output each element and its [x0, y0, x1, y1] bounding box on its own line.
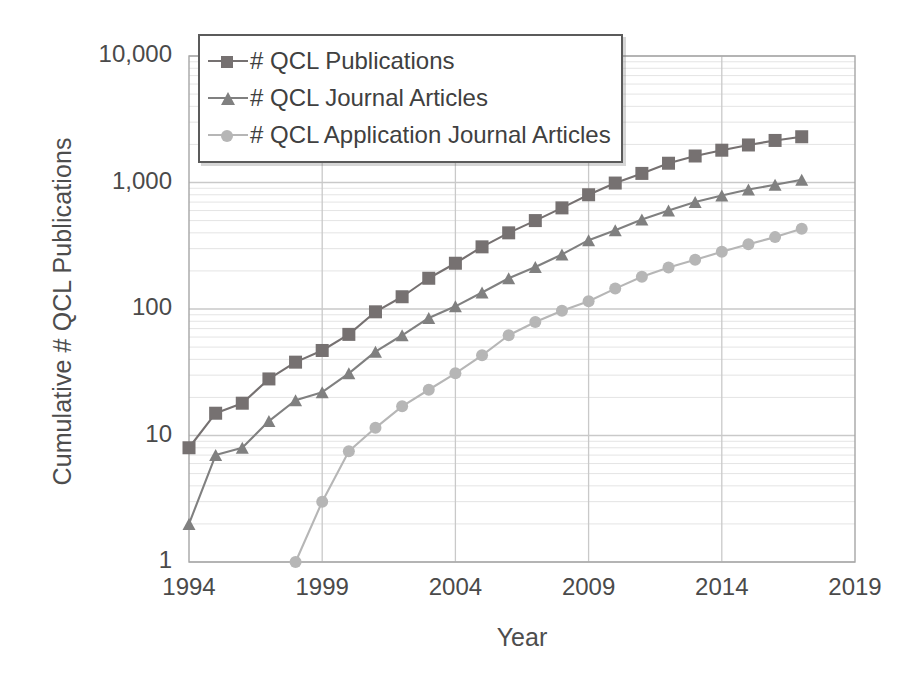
x-tick-label: 2019	[795, 573, 900, 601]
triangle-marker-icon	[221, 92, 235, 105]
data-point-marker	[449, 257, 462, 270]
data-point-marker	[476, 240, 489, 253]
data-point-marker	[423, 384, 435, 396]
data-point-marker	[422, 272, 435, 285]
data-point-marker	[609, 224, 622, 236]
data-point-marker	[316, 344, 329, 357]
data-point-marker	[689, 254, 701, 266]
legend-item: # QCL Publications	[208, 42, 611, 79]
circle-marker-icon	[221, 130, 233, 142]
data-point-marker	[795, 130, 808, 143]
y-tick-label: 10	[42, 420, 172, 448]
legend-item: # QCL Application Journal Articles	[208, 116, 611, 153]
data-point-marker	[503, 329, 515, 341]
legend-marker-square-icon	[208, 52, 248, 70]
data-point-marker	[290, 556, 302, 568]
legend-item-label: # QCL Publications	[250, 49, 455, 73]
data-point-marker	[316, 496, 328, 508]
y-tick-label: 1,000	[42, 167, 172, 195]
data-point-marker	[422, 312, 435, 324]
x-tick-label: 2014	[662, 573, 782, 601]
data-series-layer	[183, 130, 809, 568]
data-point-marker	[583, 295, 595, 307]
data-point-marker	[582, 188, 595, 201]
y-tick-label: 10,000	[42, 40, 172, 68]
data-series	[183, 130, 809, 454]
data-point-marker	[342, 328, 355, 341]
legend-item-label: # QCL Journal Articles	[250, 86, 488, 110]
data-series	[290, 223, 808, 568]
y-tick-label: 1	[42, 546, 172, 574]
x-tick-label: 1999	[262, 573, 382, 601]
data-point-marker	[289, 356, 302, 369]
legend-marker-triangle-icon	[208, 89, 248, 107]
x-tick-label: 2004	[395, 573, 515, 601]
data-point-marker	[529, 214, 542, 227]
data-point-marker	[555, 248, 568, 260]
data-point-marker	[796, 223, 808, 235]
data-point-marker	[502, 226, 515, 239]
data-point-marker	[369, 305, 382, 318]
data-point-marker	[262, 372, 275, 385]
data-point-marker	[769, 134, 782, 147]
x-tick-label: 1994	[129, 573, 249, 601]
data-point-marker	[289, 394, 302, 406]
data-point-marker	[609, 283, 621, 295]
data-point-marker	[343, 445, 355, 457]
data-point-marker	[635, 214, 648, 226]
data-point-marker	[635, 167, 648, 180]
data-point-marker	[369, 422, 381, 434]
data-point-marker	[715, 144, 728, 157]
data-point-marker	[582, 234, 595, 246]
legend-item-label: # QCL Application Journal Articles	[250, 123, 611, 147]
legend-item: # QCL Journal Articles	[208, 79, 611, 116]
data-point-marker	[689, 149, 702, 162]
data-point-marker	[396, 400, 408, 412]
x-tick-label: 2009	[529, 573, 649, 601]
data-point-marker	[742, 138, 755, 151]
data-point-marker	[742, 238, 754, 250]
data-point-marker	[209, 407, 222, 420]
data-point-marker	[529, 316, 541, 328]
data-point-marker	[555, 201, 568, 214]
data-point-marker	[662, 157, 675, 170]
data-point-marker	[236, 397, 249, 410]
qcl-publications-chart: Cumulative # QCL Publications Year 10,00…	[0, 0, 900, 691]
legend-marker-circle-icon	[208, 126, 248, 144]
data-point-marker	[502, 272, 515, 284]
data-point-marker	[663, 261, 675, 273]
data-point-marker	[556, 305, 568, 317]
y-tick-label: 100	[42, 293, 172, 321]
data-point-marker	[449, 367, 461, 379]
data-point-marker	[529, 261, 542, 273]
data-point-marker	[609, 177, 622, 190]
data-point-marker	[449, 300, 462, 312]
data-point-marker	[476, 287, 489, 299]
data-point-marker	[476, 349, 488, 361]
square-marker-icon	[221, 56, 233, 68]
data-point-marker	[183, 441, 196, 454]
chart-legend: # QCL Publications # QCL Journal Article…	[198, 34, 623, 163]
data-series	[183, 174, 809, 530]
data-point-marker	[636, 271, 648, 283]
data-point-marker	[396, 290, 409, 303]
data-point-marker	[716, 246, 728, 258]
data-point-marker	[769, 231, 781, 243]
